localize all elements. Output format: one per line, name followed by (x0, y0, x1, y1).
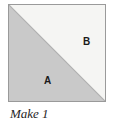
quilt-block-svg (8, 4, 106, 102)
figure-caption: Make 1 (10, 107, 49, 120)
piece-label-b: B (83, 37, 90, 47)
diagram-root: A B Make 1 (0, 0, 113, 125)
quilt-block-figure: A B (8, 4, 106, 102)
piece-label-a: A (44, 76, 51, 86)
